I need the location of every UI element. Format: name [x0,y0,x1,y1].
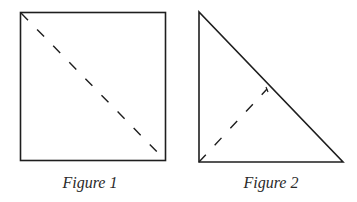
figure-1-caption: Figure 1 [62,174,118,192]
diagram-canvas: Figure 1 Figure 2 [0,0,357,202]
figure-2-caption: Figure 2 [243,174,299,192]
figure-2: Figure 2 [199,12,343,192]
diagonal-fold-line [21,13,165,160]
median-fold-line [199,89,267,162]
figure-1: Figure 1 [21,13,166,193]
